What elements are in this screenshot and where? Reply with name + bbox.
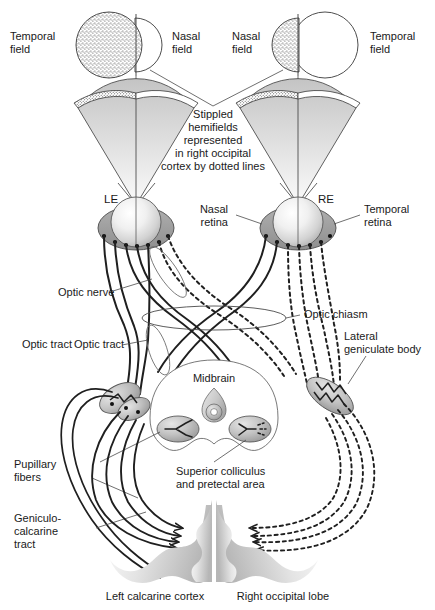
label-pupillary-fibers-line2: fibers [14,471,41,483]
label-left-eye: LE [104,193,118,205]
label-left-nasal-field-line2: field [172,43,192,55]
label-superior-colliculus-line1: Superior colliculus [176,465,266,477]
right-temporal-field-shape [292,12,358,78]
label-superior-colliculus-line2: and pretectal area [176,478,266,490]
left-temporal-field-shape [76,12,142,78]
right-eye: RE [260,193,336,250]
label-temporal-retina-line2: retina [364,216,392,228]
label-optic-nerve: Optic nerve [58,286,114,298]
label-nasal-retina-line2: retina [200,216,228,228]
left-calcarine-cortex [110,500,212,583]
figure-canvas: Temporal field Nasal field Nasal field T… [0,0,435,610]
label-right-occipital-lobe: Right occipital lobe [237,590,329,602]
caption-line-3: represented [184,134,243,146]
label-optic-tract: Optic tract [22,338,72,350]
label-left-temporal-field-line1: Temporal [10,30,55,42]
left-visual-field [76,12,168,78]
pupillary-fiber-loops [61,389,164,578]
right-occipital-lobe [216,500,318,583]
caption-line-1: Stippled [193,108,233,120]
label-lateral-geniculate-line2: geniculate body [344,343,422,355]
label-right-temporal-field-line2: field [370,43,390,55]
right-projection-fan [236,79,360,205]
optic-nerve-outline [144,242,192,302]
left-projection-fan [74,79,198,205]
label-optic-chiasm: Optic chiasm [304,308,368,320]
label-geniculocalcarine-line2: calcarine [14,525,58,537]
right-nasal-field-shape [272,18,299,72]
midbrain: Midbrain [150,360,278,450]
label-right-temporal-field-line1: Temporal [370,30,415,42]
left-lateral-geniculate-body [94,376,153,425]
left-eye: LE [98,193,174,250]
label-lateral-geniculate-line1: Lateral [344,330,378,342]
right-visual-field [272,12,358,78]
visual-pathway-diagram: Temporal field Nasal field Nasal field T… [0,0,435,610]
label-geniculocalcarine-line1: Geniculo- [14,512,61,524]
label-geniculocalcarine-line3: tract [14,538,35,550]
label-nasal-retina-line1: Nasal [200,203,228,215]
label-left-temporal-field-line2: field [10,43,30,55]
label-pupillary-fibers-line1: Pupillary [14,458,57,470]
caption-line-4: in right occipital [175,147,251,159]
label-midbrain: Midbrain [193,372,235,384]
label-left-nasal-field-line1: Nasal [172,30,200,42]
label-optic-tract-text: Optic tract [74,338,124,350]
caption-line-5: cortex by dotted lines [161,160,265,172]
caption-line-2: hemifields [188,121,238,133]
right-superior-colliculus [229,416,271,442]
label-right-nasal-field-line1: Nasal [232,30,260,42]
label-left-calcarine-cortex: Left calcarine cortex [106,590,205,602]
label-right-nasal-field-line2: field [232,43,252,55]
left-superior-colliculus [157,416,199,442]
label-temporal-retina-line1: Temporal [364,203,409,215]
right-lateral-geniculate-body [300,370,359,422]
label-right-eye: RE [318,193,334,205]
